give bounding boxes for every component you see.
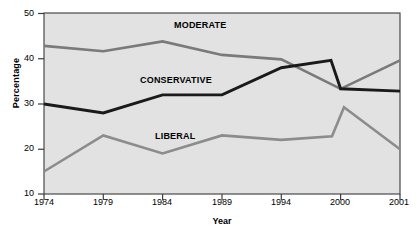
plot-area [0, 0, 417, 236]
plot-background [44, 13, 400, 194]
line-chart-figure: Percentage Year 50 40 30 20 10 1974 1979… [0, 0, 417, 236]
x-axis-ticks [44, 194, 400, 200]
series-label-moderate: MODERATE [174, 20, 226, 30]
y-axis-ticks [38, 14, 44, 195]
series-label-liberal: LIBERAL [155, 131, 195, 141]
series-label-conservative: CONSERVATIVE [140, 75, 212, 85]
